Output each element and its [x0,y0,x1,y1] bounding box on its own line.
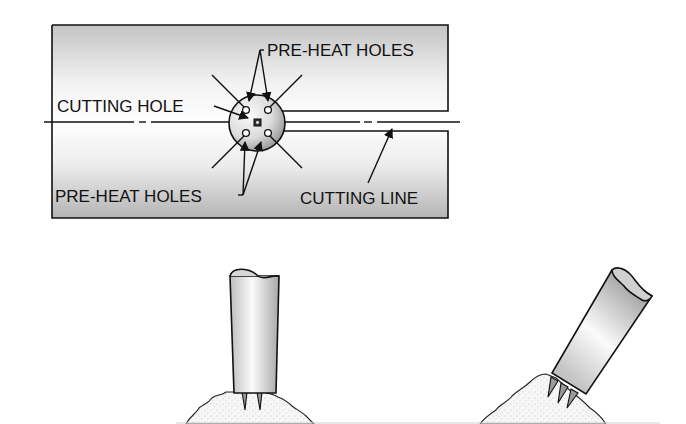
torch-vertical [186,269,314,424]
label-cutting-hole: CUTTING HOLE [57,97,184,116]
top-view: PRE-HEAT HOLES CUTTING HOLE PRE-HEAT HOL… [44,25,460,218]
label-preheat-holes-top: PRE-HEAT HOLES [267,41,414,60]
torch-tube-vertical [230,276,279,393]
label-preheat-holes-bottom: PRE-HEAT HOLES [55,187,202,206]
label-cutting-line: CUTTING LINE [300,189,418,208]
slag-mound-left [186,392,314,424]
torch-angled [480,268,652,424]
cutting-torch-diagram: PRE-HEAT HOLES CUTTING HOLE PRE-HEAT HOL… [0,0,686,424]
